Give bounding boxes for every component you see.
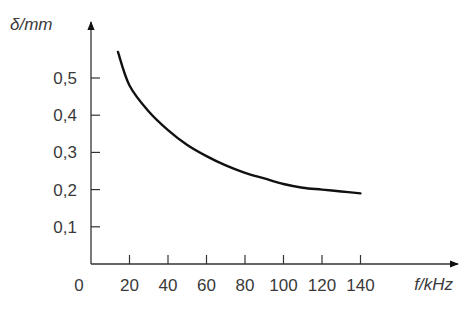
y-tick-label: 0,3: [53, 143, 77, 162]
x-tick-label: 120: [308, 276, 336, 295]
y-tick-label: 0,4: [53, 106, 77, 125]
x-tick-label: 40: [159, 276, 178, 295]
x-tick-label: 0: [74, 276, 83, 295]
y-tick-label: 0,5: [53, 69, 77, 88]
x-tick-label: 100: [269, 276, 297, 295]
axes: [91, 22, 458, 264]
y-tick-label: 0,2: [53, 181, 77, 200]
x-tick-label: 60: [197, 276, 216, 295]
y-ticks: 0,10,20,30,40,5: [53, 69, 100, 237]
chart: 0,10,20,30,40,5 020406080100120140 δ/mm …: [0, 0, 472, 315]
data-curve: [118, 52, 361, 193]
x-ticks: 020406080100120140: [74, 255, 374, 295]
y-axis-label: δ/mm: [10, 15, 53, 34]
x-tick-label: 80: [236, 276, 255, 295]
x-axis-label: f/kHz: [414, 275, 453, 294]
x-tick-label: 20: [120, 276, 139, 295]
x-tick-label: 140: [346, 276, 374, 295]
y-tick-label: 0,1: [53, 218, 77, 237]
